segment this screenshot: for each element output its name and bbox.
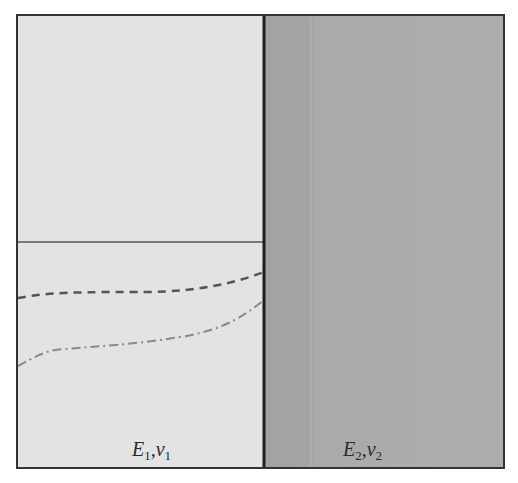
bimaterial-diagram: E1,ν1 E2,ν2 [0, 0, 518, 483]
material-2-region [264, 15, 504, 468]
